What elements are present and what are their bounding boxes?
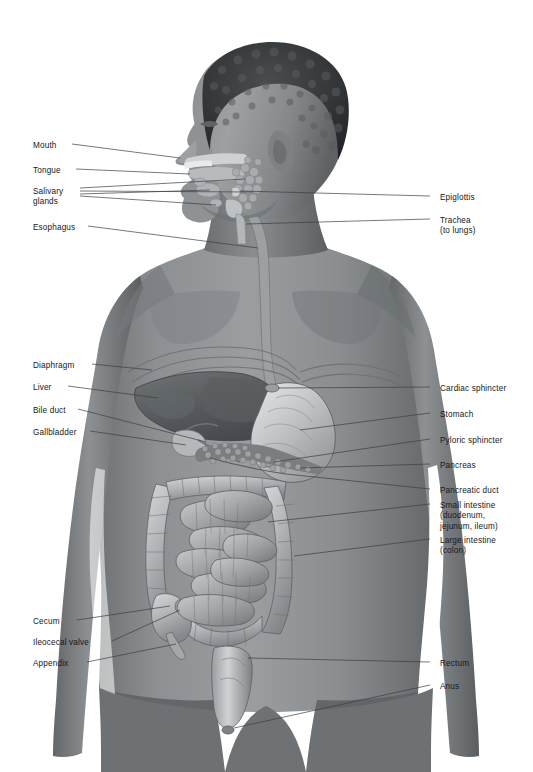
label-ileocecal-valve-line-1: Ileocecal valve <box>33 638 89 648</box>
anus-organ <box>222 726 234 734</box>
label-gallbladder-line-1: Gallbladder <box>33 428 77 438</box>
label-liver: Liver <box>33 383 52 393</box>
label-tongue-line-1: Tongue <box>33 166 61 176</box>
label-pancreas-line-1: Pancreas <box>440 461 476 471</box>
label-trachea: Trachea(to lungs) <box>440 216 476 237</box>
label-large-intestine-line-1: Large intestine <box>440 536 496 546</box>
label-anus: Anus <box>440 682 459 692</box>
label-small-intestine-line-3: jejunum, ileum) <box>440 522 498 532</box>
label-diaphragm: Diaphragm <box>33 361 74 371</box>
label-tongue: Tongue <box>33 166 61 176</box>
label-large-intestine-line-2: (colon) <box>440 546 496 556</box>
label-mouth: Mouth <box>33 141 57 151</box>
label-anus-line-1: Anus <box>440 682 459 692</box>
label-cecum: Cecum <box>33 617 60 627</box>
label-trachea-line-1: Trachea <box>440 216 476 226</box>
cardiac-sphincter-organ <box>265 384 279 392</box>
label-stomach: Stomach <box>440 410 473 420</box>
label-epiglottis: Epiglottis <box>440 193 475 203</box>
label-rectum-line-1: Rectum <box>440 659 469 669</box>
left-hip <box>99 688 225 772</box>
label-rectum: Rectum <box>440 659 469 669</box>
label-salivary-glands-line-2: glands <box>33 197 63 207</box>
label-cardiac-sphincter: Cardiac sphincter <box>440 384 506 394</box>
label-epiglottis-line-1: Epiglottis <box>440 193 475 203</box>
leader-mouth <box>72 144 180 158</box>
label-bile-duct: Bile duct <box>33 406 66 416</box>
label-salivary-glands: Salivaryglands <box>33 187 63 208</box>
label-appendix: Appendix <box>33 659 68 669</box>
label-cecum-line-1: Cecum <box>33 617 60 627</box>
label-large-intestine: Large intestine(colon) <box>440 536 496 557</box>
label-esophagus: Esophagus <box>33 223 75 233</box>
label-appendix-line-1: Appendix <box>33 659 68 669</box>
label-liver-line-1: Liver <box>33 383 52 393</box>
label-trachea-line-2: (to lungs) <box>440 226 476 236</box>
label-salivary-glands-line-1: Salivary <box>33 187 63 197</box>
label-pyloric-sphincter: Pyloric sphincter <box>440 436 503 446</box>
label-small-intestine-line-1: Small intestine <box>440 501 498 511</box>
label-small-intestine: Small intestine(duodenum,jejunum, ileum) <box>440 501 498 532</box>
label-pancreas: Pancreas <box>440 461 476 471</box>
label-cardiac-sphincter-line-1: Cardiac sphincter <box>440 384 506 394</box>
label-pancreatic-duct-line-1: Pancreatic duct <box>440 486 499 496</box>
label-pancreatic-duct: Pancreatic duct <box>440 486 499 496</box>
label-pyloric-sphincter-line-1: Pyloric sphincter <box>440 436 503 446</box>
label-small-intestine-line-2: (duodenum, <box>440 511 498 521</box>
label-diaphragm-line-1: Diaphragm <box>33 361 74 371</box>
label-gallbladder: Gallbladder <box>33 428 77 438</box>
leader-tongue <box>76 169 190 174</box>
right-hip <box>306 688 433 772</box>
label-mouth-line-1: Mouth <box>33 141 57 151</box>
rectum-organ <box>212 646 252 734</box>
label-stomach-line-1: Stomach <box>440 410 473 420</box>
label-bile-duct-line-1: Bile duct <box>33 406 66 416</box>
label-esophagus-line-1: Esophagus <box>33 223 75 233</box>
label-ileocecal-valve: Ileocecal valve <box>33 638 89 648</box>
